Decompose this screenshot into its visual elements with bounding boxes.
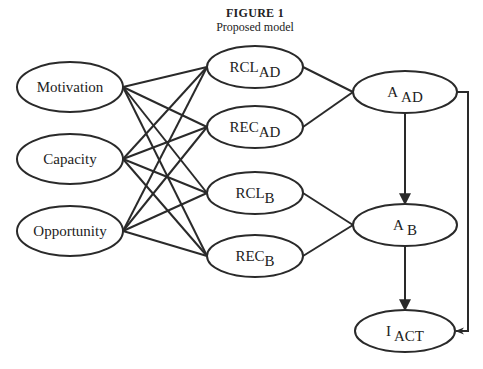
model-diagram: MotivationCapacityOpportunityRCLADRECADR… — [0, 0, 483, 369]
node-a-b: AB — [353, 204, 457, 246]
node-label-main: REC — [235, 248, 264, 264]
node-label: Capacity — [43, 151, 97, 167]
node-rcl-ad: RCLAD — [207, 46, 303, 88]
node-label-main: A — [393, 217, 404, 233]
node-rec-b: RECB — [207, 235, 303, 277]
node-label-main: Motivation — [37, 79, 104, 95]
edge-rec-b-to-a-b — [303, 225, 353, 256]
node-opportunity: Opportunity — [17, 206, 123, 256]
node-label-subscript: AD — [259, 124, 281, 140]
node-motivation: Motivation — [17, 62, 123, 112]
node-label-subscript: B — [407, 222, 417, 238]
edge-a-ad-to-i-act — [456, 92, 468, 331]
node-label-main: REC — [230, 119, 259, 135]
edge-opportunity-to-rcl-b — [123, 193, 207, 231]
node-label-subscript: B — [265, 253, 275, 269]
edge-motivation-to-rcl-ad — [123, 67, 207, 87]
edge-opportunity-to-rec-b — [123, 231, 207, 256]
node-label-subscript: AD — [259, 64, 281, 80]
node-label: Opportunity — [33, 223, 107, 239]
node-label-main: I — [386, 323, 391, 339]
edge-rcl-b-to-a-b — [303, 193, 353, 225]
node-label-main: Capacity — [43, 151, 97, 167]
node-a-ad: AAD — [353, 71, 457, 113]
node-label-main: Opportunity — [33, 223, 107, 239]
node-i-act: IACT — [355, 310, 455, 352]
node-label-main: A — [387, 84, 398, 100]
nodes-layer: MotivationCapacityOpportunityRCLADRECADR… — [17, 46, 457, 352]
node-label-subscript: B — [265, 190, 275, 206]
edge-motivation-to-rcl-b — [123, 87, 207, 193]
edge-rec-ad-to-a-ad — [303, 92, 353, 127]
node-label-subscript: AD — [401, 89, 423, 105]
node-capacity: Capacity — [17, 134, 123, 184]
node-label: Motivation — [37, 79, 104, 95]
edge-rcl-ad-to-a-ad — [303, 67, 353, 92]
node-label-main: RCL — [230, 59, 259, 75]
node-label-main: RCL — [235, 185, 264, 201]
node-label-subscript: ACT — [394, 328, 424, 344]
node-rcl-b: RCLB — [207, 172, 303, 214]
node-ellipse — [353, 204, 457, 246]
node-rec-ad: RECAD — [207, 106, 303, 148]
